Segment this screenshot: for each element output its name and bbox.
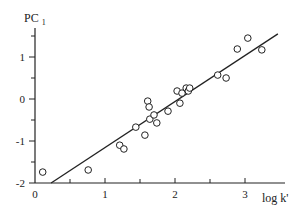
data-point xyxy=(165,108,172,115)
data-point xyxy=(223,75,230,82)
data-point xyxy=(85,167,92,174)
x-tick-label: 3 xyxy=(242,188,248,200)
y-axis-title-subscript: 1 xyxy=(42,18,46,27)
data-point xyxy=(133,124,140,131)
x-tick-label: 0 xyxy=(32,188,38,200)
y-tick-label: 0 xyxy=(20,93,26,105)
x-tick-label: 2 xyxy=(172,188,178,200)
data-point xyxy=(39,169,46,176)
x-axis-title: log k' xyxy=(262,191,289,205)
regression-line xyxy=(51,34,278,183)
y-tick-label: -1 xyxy=(16,135,25,147)
y-axis-title: PC1 xyxy=(24,11,46,27)
data-point xyxy=(142,132,149,139)
data-point xyxy=(245,35,252,42)
tick-labels: 012310-1-2 xyxy=(16,51,248,200)
data-point xyxy=(186,85,193,92)
data-point xyxy=(154,120,161,127)
data-point xyxy=(146,104,153,111)
y-tick-label: -2 xyxy=(16,177,25,189)
data-point xyxy=(121,146,128,153)
axes xyxy=(35,28,285,183)
data-point xyxy=(151,112,158,119)
data-point xyxy=(214,72,221,79)
data-point xyxy=(259,47,266,54)
data-points xyxy=(39,35,265,176)
ticks xyxy=(29,36,245,183)
data-point xyxy=(177,100,184,107)
data-point xyxy=(234,46,241,53)
y-tick-label: 1 xyxy=(20,51,26,63)
scatter-plot: 012310-1-2 PC1 log k' xyxy=(0,0,305,215)
x-tick-label: 1 xyxy=(102,188,108,200)
